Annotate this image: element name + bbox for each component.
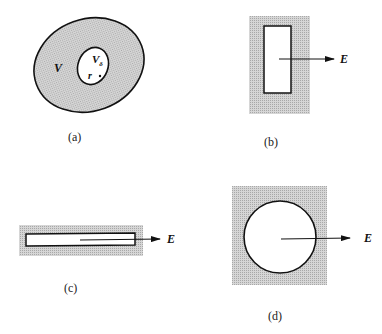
circle-cavity (244, 201, 316, 273)
caption-d: (d) (268, 309, 282, 323)
figure-canvas: V Vδ r (a) E (b) E (c) E (d) (0, 0, 382, 334)
panel-d: E (d) (232, 186, 372, 323)
panel-c: E (c) (19, 225, 175, 295)
point-dot (99, 75, 101, 77)
caption-c: (c) (64, 281, 77, 295)
caption-b: (b) (264, 135, 278, 149)
panel-a: V Vδ r (a) (21, 3, 158, 144)
field-label-e: E (339, 52, 348, 66)
outer-volume-label: V (54, 61, 63, 75)
field-label-e: E (363, 231, 372, 245)
field-label-e: E (166, 232, 175, 246)
point-label: r (88, 70, 92, 81)
panel-b: E (b) (249, 16, 348, 149)
caption-a: (a) (68, 130, 81, 144)
